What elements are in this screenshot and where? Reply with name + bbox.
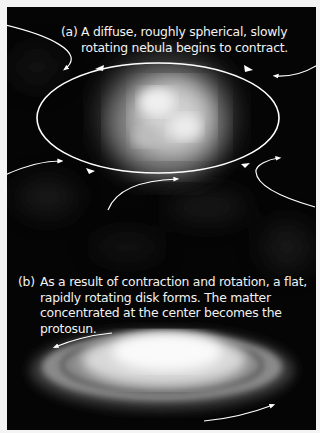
figure-panel: (a) A diffuse, roughly spherical, slowly… xyxy=(7,7,316,430)
caption-b-text: As a result of contraction and rotation,… xyxy=(18,274,316,336)
nebula-illustration xyxy=(7,7,316,430)
caption-a-label: (a) xyxy=(61,24,78,40)
nebula-cloud xyxy=(97,52,237,182)
caption-a-text: A diffuse, roughly spherical, slowly rot… xyxy=(61,24,311,55)
caption-b-label: (b) xyxy=(18,274,35,290)
caption-b: (b) As a result of contraction and rotat… xyxy=(18,274,316,336)
caption-a: (a) A diffuse, roughly spherical, slowly… xyxy=(61,24,311,55)
